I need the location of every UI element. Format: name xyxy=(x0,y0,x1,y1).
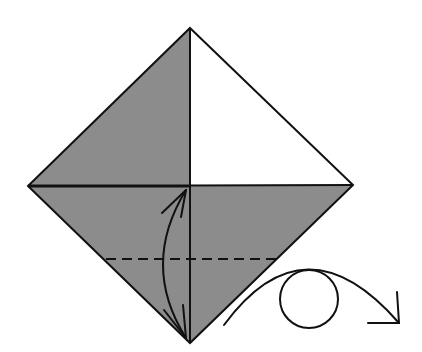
diagram-canvas xyxy=(0,0,422,352)
origami-diagram xyxy=(0,0,422,352)
horizontal-crease xyxy=(190,185,353,186)
